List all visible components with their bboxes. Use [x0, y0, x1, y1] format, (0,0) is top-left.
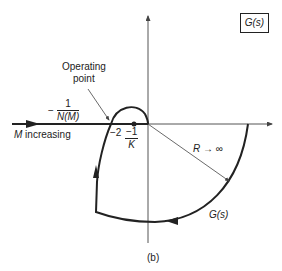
operating-point-label-line1: Operating [62, 62, 106, 72]
leftward-arrow-icon [166, 217, 178, 225]
describing-function-numerator: 1 [57, 99, 79, 111]
describing-function-denominator: N(M) [57, 111, 79, 122]
describing-function-fraction: 1 N(M) [57, 99, 79, 122]
radius-label: R → ∞ [193, 144, 223, 154]
describing-function-sign: − [48, 106, 54, 116]
operating-point-label-line2: point [73, 74, 95, 84]
transfer-function-box: G(s) [240, 13, 269, 33]
tick-label-minus-inv-k: −1 K [125, 127, 138, 150]
nyquist-main-curve [96, 124, 248, 222]
inv-k-numerator: −1 [125, 127, 138, 139]
figure-caption: (b) [147, 253, 159, 263]
curve-label: G(s) [209, 210, 228, 220]
operating-point-pointer [88, 89, 109, 120]
m-increasing-arrow-icon [26, 120, 40, 128]
tick-label-minus-2: −2 [110, 128, 121, 138]
inv-k-denominator: K [125, 139, 138, 150]
increasing-text: increasing [22, 129, 70, 140]
nyquist-small-loop [111, 107, 148, 124]
m-increasing-label: M increasing [14, 130, 71, 140]
